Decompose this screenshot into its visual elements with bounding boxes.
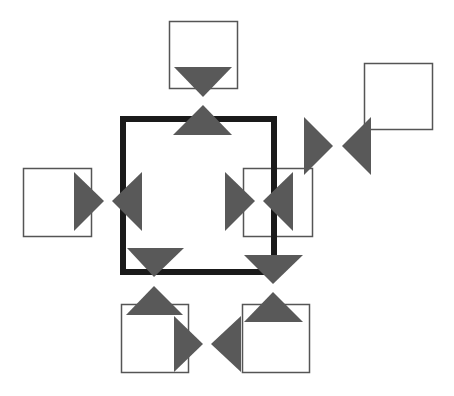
triangles-group: [74, 67, 371, 372]
triangle-bottom-left-pointing-icon: [211, 316, 241, 372]
triangle-mid-left-icon: [263, 172, 293, 231]
triangle-br-up-icon: [244, 292, 303, 322]
triangle-left-left-icon: [112, 172, 142, 231]
diagram-canvas: [0, 0, 454, 396]
triangle-top-down-icon: [174, 67, 232, 97]
triangle-left-right-icon: [74, 172, 104, 231]
triangle-tr-left-icon: [342, 117, 371, 175]
box-top-right: [365, 64, 433, 130]
triangle-bl-up-icon: [126, 286, 183, 315]
triangle-mid-right-icon: [225, 172, 255, 231]
triangle-tr-right-icon: [304, 117, 333, 175]
